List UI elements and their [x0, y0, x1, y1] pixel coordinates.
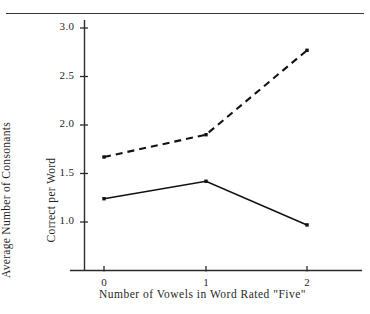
y-axis-tick-label: 3.0: [43, 20, 75, 32]
y-axis-tick-label: 1.0: [43, 214, 75, 226]
figure-container: Average Number of Consonants Correct per…: [0, 0, 370, 314]
y-axis-tick-label: 2.0: [43, 117, 75, 129]
x-axis-tick-label: 0: [94, 276, 114, 288]
x-axis-tick-label: 2: [297, 276, 317, 288]
y-axis-tick-label: 2.5: [43, 69, 75, 81]
x-axis-tick-label: 1: [196, 276, 216, 288]
y-axis-label-line1: Average Number of Consonants: [0, 95, 14, 305]
series-line-dashed: [104, 50, 307, 157]
data-point-marker: [204, 133, 207, 136]
data-point-marker: [204, 180, 207, 183]
data-point-marker: [102, 197, 105, 200]
series-line-solid: [104, 181, 307, 225]
data-point-marker: [102, 155, 105, 158]
data-point-marker: [305, 223, 308, 226]
series-markers-dashed: [102, 49, 308, 159]
y-axis-tick-label: 1.5: [43, 166, 75, 178]
series-markers-solid: [102, 180, 308, 227]
x-axis-label: Number of Vowels in Word Rated "Five": [60, 288, 345, 300]
data-point-marker: [305, 49, 308, 52]
